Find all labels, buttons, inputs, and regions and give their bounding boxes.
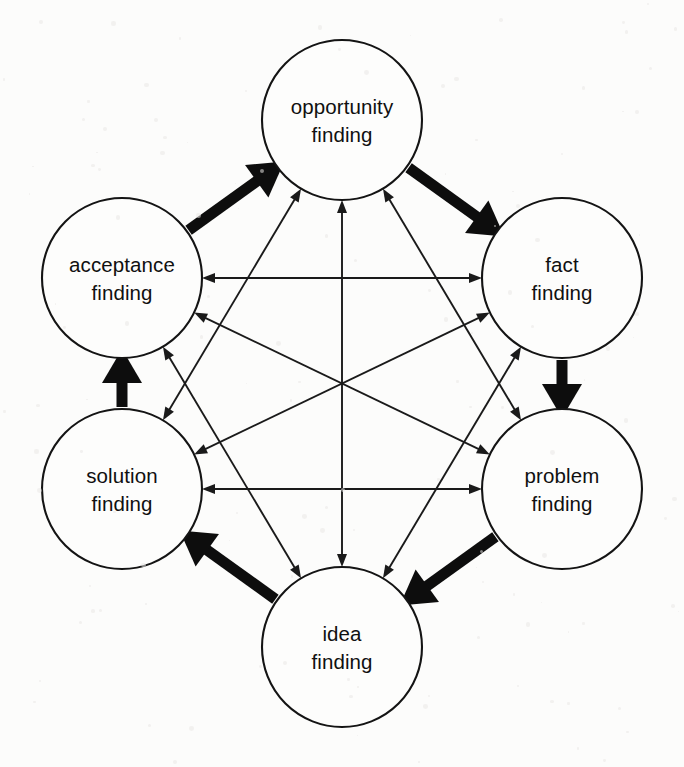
node-opportunity[interactable]: opportunityfinding bbox=[262, 40, 422, 200]
node-circle-solution[interactable] bbox=[42, 409, 202, 569]
thin-arrowhead bbox=[337, 200, 347, 213]
node-problem[interactable]: problemfinding bbox=[482, 409, 642, 569]
thin-arrowhead bbox=[194, 444, 208, 454]
node-label-line2-problem: finding bbox=[531, 492, 592, 515]
thin-arrowhead bbox=[469, 484, 482, 494]
thin-arrowhead bbox=[337, 554, 347, 567]
node-fact[interactable]: factfinding bbox=[482, 198, 642, 358]
node-label-line1-acceptance: acceptance bbox=[69, 253, 175, 276]
thin-arrowhead bbox=[383, 189, 394, 203]
node-label-line2-opportunity: finding bbox=[311, 123, 372, 146]
thin-arrowhead bbox=[163, 407, 174, 421]
node-label-line2-fact: finding bbox=[531, 281, 592, 304]
node-label-line1-problem: problem bbox=[525, 464, 600, 487]
node-solution[interactable]: solutionfinding bbox=[42, 409, 202, 569]
node-label-line2-acceptance: finding bbox=[91, 281, 152, 304]
bold-edge-shaft bbox=[409, 168, 483, 221]
bold-edge-shaft bbox=[201, 546, 275, 599]
node-acceptance[interactable]: acceptancefinding bbox=[42, 198, 202, 358]
diagram-canvas: opportunityfindingfactfindingproblemfind… bbox=[0, 0, 684, 767]
node-circle-opportunity[interactable] bbox=[262, 40, 422, 200]
cycle-diagram: opportunityfindingfactfindingproblemfind… bbox=[0, 0, 684, 767]
thin-arrowhead bbox=[163, 347, 174, 361]
bold-edge-problem-to-idea bbox=[400, 537, 496, 606]
thin-arrowhead bbox=[510, 407, 521, 421]
node-label-line2-idea: finding bbox=[311, 650, 372, 673]
node-circle-problem[interactable] bbox=[482, 409, 642, 569]
node-circle-fact[interactable] bbox=[482, 198, 642, 358]
thin-arrowhead bbox=[290, 565, 301, 579]
bold-edge-shaft bbox=[421, 537, 495, 590]
bold-edge-idea-to-solution bbox=[180, 530, 276, 599]
thin-arrowhead bbox=[476, 444, 490, 454]
thin-arrowhead bbox=[194, 313, 208, 323]
thin-arrowhead bbox=[202, 484, 215, 494]
node-label-line2-solution: finding bbox=[91, 492, 152, 515]
node-label-line1-opportunity: opportunity bbox=[291, 95, 394, 118]
node-circle-idea[interactable] bbox=[262, 567, 422, 727]
bold-edge-opportunity-to-fact bbox=[409, 168, 505, 237]
node-circle-acceptance[interactable] bbox=[42, 198, 202, 358]
node-label-line1-solution: solution bbox=[86, 464, 157, 487]
thin-arrowhead bbox=[383, 565, 394, 579]
bold-edge-shaft bbox=[189, 177, 263, 230]
node-idea[interactable]: ideafinding bbox=[262, 567, 422, 727]
node-label-line1-fact: fact bbox=[545, 253, 579, 276]
thin-arrowhead bbox=[202, 273, 215, 283]
thin-edge-layer bbox=[163, 189, 521, 579]
thin-arrowhead bbox=[476, 313, 490, 323]
bold-edge-acceptance-to-opportunity bbox=[189, 161, 285, 230]
node-label-line1-idea: idea bbox=[322, 622, 362, 645]
thin-arrowhead bbox=[510, 347, 521, 361]
thin-arrowhead bbox=[469, 273, 482, 283]
thin-arrowhead bbox=[290, 189, 301, 203]
